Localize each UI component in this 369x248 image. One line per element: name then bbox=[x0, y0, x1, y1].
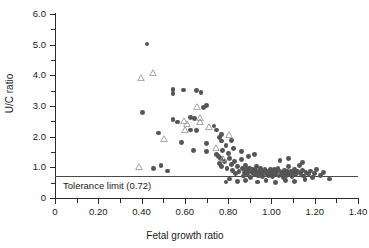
data-point-triangle bbox=[212, 144, 220, 152]
data-point-circle bbox=[219, 132, 224, 137]
x-tick-label: 0.20 bbox=[81, 207, 115, 217]
data-point-circle bbox=[199, 90, 204, 95]
data-point-circle bbox=[264, 178, 269, 183]
data-point-circle bbox=[300, 160, 305, 165]
data-point-circle bbox=[239, 157, 244, 162]
data-point-circle bbox=[220, 148, 225, 153]
x-tick-major bbox=[315, 199, 316, 204]
data-point-circle bbox=[327, 177, 332, 182]
data-point-circle bbox=[179, 140, 184, 145]
x-tick-minor bbox=[207, 199, 208, 203]
y-tick-label: 3.0 bbox=[20, 101, 46, 111]
x-tick-major bbox=[228, 199, 229, 204]
data-point-circle bbox=[273, 180, 278, 185]
data-point-circle bbox=[159, 163, 164, 168]
x-tick-major bbox=[142, 199, 143, 204]
data-point-circle bbox=[227, 156, 232, 161]
data-point-circle bbox=[194, 128, 199, 133]
x-tick-label: 0 bbox=[38, 207, 72, 217]
plot-area: Tolerance limit (0.72) bbox=[55, 14, 358, 198]
x-tick-major bbox=[55, 199, 56, 204]
data-point-circle bbox=[165, 169, 170, 174]
data-point-circle bbox=[181, 88, 186, 93]
data-point-circle bbox=[204, 141, 209, 146]
x-tick-minor bbox=[77, 199, 78, 203]
data-point-circle bbox=[286, 156, 291, 161]
data-point-circle bbox=[224, 143, 229, 148]
data-point-triangle bbox=[225, 131, 233, 139]
x-tick-label: 1.40 bbox=[341, 207, 369, 217]
y-axis-title: U/C ratio bbox=[4, 57, 15, 131]
data-point-circle bbox=[243, 178, 248, 183]
data-point-triangle bbox=[196, 118, 204, 126]
data-point-circle bbox=[224, 180, 229, 185]
data-point-circle bbox=[252, 152, 257, 157]
data-point-circle bbox=[292, 179, 297, 184]
data-point-triangle bbox=[205, 123, 213, 131]
data-point-triangle bbox=[137, 74, 145, 82]
x-tick-minor bbox=[271, 199, 272, 203]
data-point-triangle bbox=[219, 155, 227, 163]
x-tick-minor bbox=[293, 199, 294, 203]
data-point-circle bbox=[283, 178, 288, 183]
x-tick-label: 0.40 bbox=[125, 207, 159, 217]
x-tick-minor bbox=[336, 199, 337, 203]
data-point-triangle bbox=[193, 103, 201, 111]
y-tick-label: 2.0 bbox=[20, 132, 46, 142]
data-point-circle bbox=[239, 149, 244, 154]
data-point-circle bbox=[219, 164, 224, 169]
x-tick-label: 0.80 bbox=[211, 207, 245, 217]
x-tick-label: 1.20 bbox=[298, 207, 332, 217]
y-tick-label: 1.0 bbox=[20, 162, 46, 172]
data-point-circle bbox=[225, 166, 230, 171]
data-point-circle bbox=[229, 138, 234, 143]
data-point-triangle bbox=[149, 69, 157, 77]
x-tick-major bbox=[185, 199, 186, 204]
data-point-circle bbox=[278, 158, 283, 163]
tolerance-limit-label: Tolerance limit (0.72) bbox=[63, 180, 151, 191]
data-point-circle bbox=[204, 149, 209, 154]
scatter-chart-figure: 01.02.03.04.05.06.0 00.200.400.600.801.0… bbox=[0, 0, 369, 248]
x-tick-minor bbox=[120, 199, 121, 203]
data-point-circle bbox=[303, 177, 308, 182]
x-axis-title: Fetal growth ratio bbox=[120, 230, 250, 241]
data-point-circle bbox=[175, 120, 180, 125]
y-tick-label: 5.0 bbox=[20, 40, 46, 50]
data-point-circle bbox=[214, 128, 219, 133]
data-point-circle bbox=[321, 170, 326, 175]
x-tick-major bbox=[98, 199, 99, 204]
data-point-circle bbox=[140, 110, 145, 115]
y-tick-label: 6.0 bbox=[20, 9, 46, 19]
data-point-circle bbox=[255, 180, 260, 185]
data-point-circle bbox=[246, 154, 251, 159]
data-point-circle bbox=[219, 139, 224, 144]
x-tick-label: 0.60 bbox=[168, 207, 202, 217]
data-point-circle bbox=[314, 167, 319, 172]
data-point-circle bbox=[145, 42, 150, 47]
data-point-triangle bbox=[160, 135, 168, 143]
x-tick-major bbox=[358, 199, 359, 204]
data-point-circle bbox=[204, 103, 209, 108]
x-tick-minor bbox=[163, 199, 164, 203]
y-tick-label: 4.0 bbox=[20, 70, 46, 80]
data-point-triangle bbox=[135, 163, 143, 171]
data-point-triangle bbox=[181, 126, 189, 134]
y-tick-label: 0 bbox=[20, 193, 46, 203]
data-point-circle bbox=[231, 146, 236, 151]
x-tick-minor bbox=[250, 199, 251, 203]
data-point-circle bbox=[151, 166, 156, 171]
x-tick-label: 1.00 bbox=[254, 207, 288, 217]
data-point-circle bbox=[191, 148, 196, 153]
data-point-circle bbox=[235, 179, 240, 184]
data-point-circle bbox=[171, 91, 176, 96]
